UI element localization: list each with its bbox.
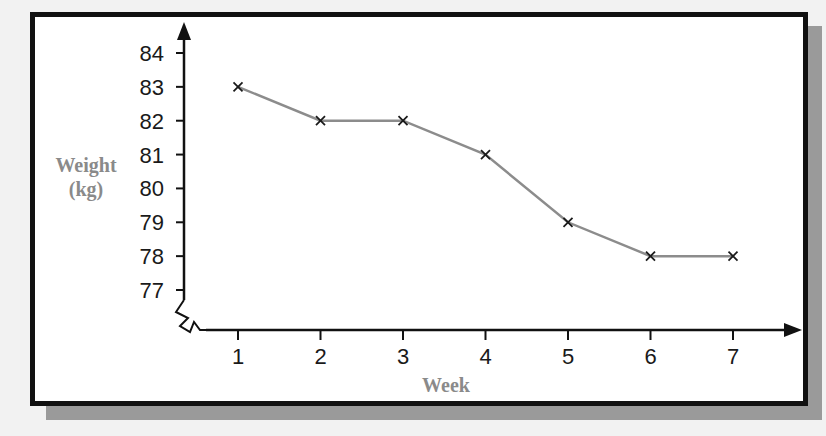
x-ticks: 1234567 bbox=[232, 330, 739, 369]
x-tick-label: 6 bbox=[644, 344, 656, 369]
x-tick-label: 4 bbox=[479, 344, 491, 369]
x-tick-label: 2 bbox=[314, 344, 326, 369]
y-tick-label: 77 bbox=[140, 278, 164, 303]
x-tick-label: 5 bbox=[562, 344, 574, 369]
y-tick-label: 83 bbox=[140, 75, 164, 100]
series-weight bbox=[234, 82, 738, 260]
line-chart: 8483828180797877 1234567 Weight (kg) Wee… bbox=[0, 0, 826, 436]
y-tick-label: 79 bbox=[140, 210, 164, 235]
weight-line bbox=[238, 87, 733, 256]
x-tick-label: 1 bbox=[232, 344, 244, 369]
axis-break-icon bbox=[176, 300, 206, 332]
x-tick-label: 7 bbox=[727, 344, 739, 369]
x-axis-arrow-icon bbox=[784, 323, 802, 337]
y-tick-label: 80 bbox=[140, 176, 164, 201]
y-axis-title-line2: (kg) bbox=[69, 178, 103, 201]
x-axis: 1234567 bbox=[206, 323, 802, 369]
y-tick-label: 82 bbox=[140, 109, 164, 134]
y-ticks: 8483828180797877 bbox=[140, 41, 184, 303]
y-tick-label: 78 bbox=[140, 244, 164, 269]
x-tick-label: 3 bbox=[397, 344, 409, 369]
y-tick-label: 81 bbox=[140, 143, 164, 168]
weight-markers bbox=[234, 82, 738, 260]
y-tick-label: 84 bbox=[140, 41, 164, 66]
x-axis-title: Week bbox=[422, 374, 471, 396]
y-axis: 8483828180797877 bbox=[140, 22, 206, 332]
y-axis-title-line1: Weight bbox=[55, 154, 116, 177]
y-axis-arrow-icon bbox=[177, 22, 191, 40]
